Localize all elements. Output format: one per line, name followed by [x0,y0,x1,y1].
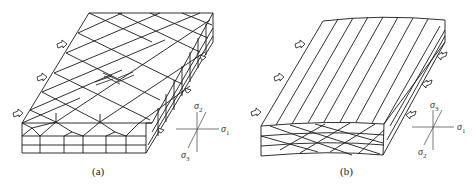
caption-a: (a) [92,166,104,177]
caption-b: (b) [340,166,353,177]
sigma-3-label: σ3 [430,100,438,113]
stress-axes-b [412,110,454,150]
block-diagram-b [240,0,472,184]
compression-arrows-left [251,40,305,116]
sigma-3-label: σ3 [181,150,189,163]
sigma-1-label: σ1 [221,124,229,137]
figure-a: σ2 σ1 σ3 (a) [0,0,240,184]
block-diagram-a [0,0,240,184]
stress-axes-a [176,112,219,152]
figure-b: σ3 σ1 σ2 (b) [240,0,472,184]
sigma-1-label: σ1 [457,122,465,135]
sigma-2-label: σ2 [194,101,202,114]
sigma-2-label: σ2 [418,147,426,160]
